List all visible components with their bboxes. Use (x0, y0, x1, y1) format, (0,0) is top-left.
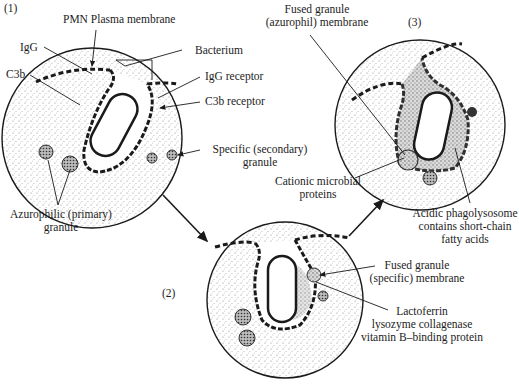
bacterium-label: Bacterium (195, 44, 243, 57)
c3b-label: C3b (6, 68, 25, 81)
acidic-phagolysosome-label: Acidic phagolysosome contains short-chai… (410, 207, 519, 246)
panel-1-cell (2, 48, 182, 228)
cationic-proteins-label: Cationic microbial proteins (268, 175, 368, 201)
azurophilic-granule-label: Azurophilic (primary) granule (6, 208, 116, 234)
panel-2-cell (207, 222, 363, 378)
step-3-label: (3) (408, 16, 421, 28)
specific-granule-label: Specific (secondary) granule (200, 143, 320, 169)
pmn-membrane-label: PMN Plasma membrane (63, 13, 175, 26)
fused-specific-granule-label: Fused granule (specific) membrane (362, 259, 472, 285)
igg-receptor-label: IgG receptor (205, 70, 263, 83)
c3b-receptor-label: C3b receptor (205, 95, 265, 108)
step-1-label: (1) (4, 2, 17, 14)
step-2-label: (2) (162, 287, 175, 299)
specific-granule-contents-label: Lactoferrin lysozyme collagenase vitamin… (357, 305, 487, 344)
igg-label: IgG (20, 41, 38, 54)
fused-azurophil-granule-label: Fused granule (azurophil) membrane (262, 3, 372, 29)
